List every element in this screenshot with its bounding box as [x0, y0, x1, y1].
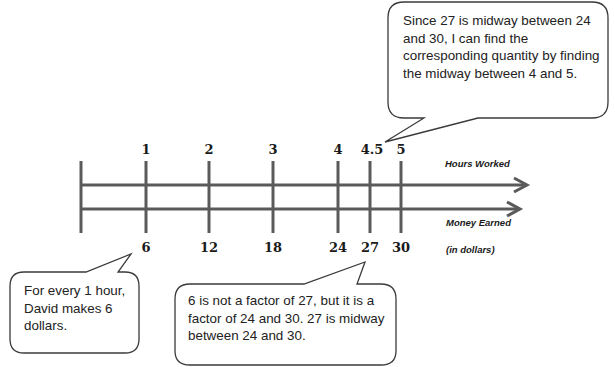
tick-marks: [146, 161, 401, 233]
money-tick-label: 6: [141, 240, 150, 255]
hours-worked-label: Hours Worked: [445, 158, 510, 169]
hours-tick-label: 3: [268, 142, 277, 157]
money-tick-label: 24: [329, 240, 347, 255]
money-earned-label: Money Earned: [446, 217, 511, 228]
hours-tick-label: 4: [333, 142, 342, 157]
in-dollars-label: (in dollars): [446, 244, 495, 255]
hours-tick-label: 5: [396, 142, 405, 157]
callout-text-bottom-middle: 6 is not a factor of 27, but it is a fac…: [188, 292, 394, 345]
hours-tick-label: 4.5: [361, 142, 384, 157]
money-tick-label: 18: [264, 240, 282, 255]
callout-text-bottom-left: For every 1 hour, David makes 6 dollars.: [24, 282, 136, 335]
hours-tick-label: 2: [204, 142, 213, 157]
money-tick-label: 12: [200, 240, 218, 255]
money-tick-label: 30: [392, 240, 410, 255]
callout-text-top-right: Since 27 is midway between 24 and 30, I …: [403, 12, 603, 82]
money-tick-label: 27: [361, 240, 379, 255]
hours-tick-label: 1: [141, 142, 150, 157]
